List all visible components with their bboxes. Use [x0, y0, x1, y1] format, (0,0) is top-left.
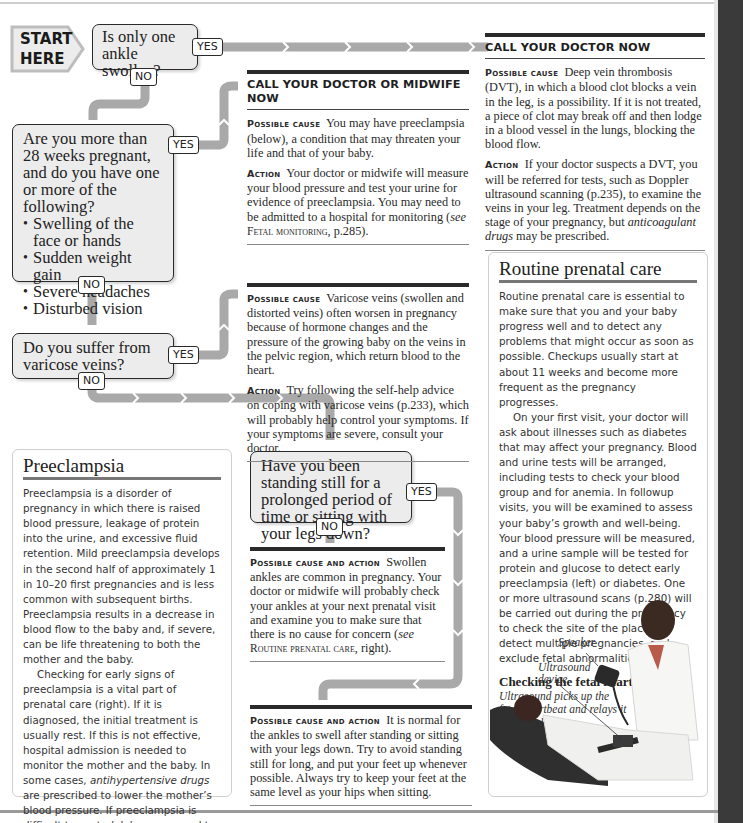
panel-bar	[247, 283, 469, 287]
cause-action-label: Possible cause and action	[250, 557, 380, 568]
cross-ref-fetal-monitoring[interactable]: Fetal monitoring	[247, 225, 327, 237]
q1-no-tag[interactable]: NO	[130, 68, 157, 86]
cause-label: Possible cause	[247, 293, 320, 304]
q4-no-tag[interactable]: NO	[316, 518, 343, 536]
panel-swelling-normal: Possible cause and action It is normal f…	[250, 705, 472, 806]
label-speaker: Speaker	[558, 636, 595, 648]
panel-call-doctor-dvt: CALL YOUR DOCTOR NOW Possible cause Deep…	[485, 33, 705, 251]
connector-q1-no	[93, 80, 145, 120]
cross-ref-routine-prenatal-care[interactable]: Routine prenatal care	[250, 642, 355, 654]
question-one-ankle: Is only one ankle swollen?	[92, 24, 198, 70]
action-label: Action	[247, 385, 280, 396]
panel-header: CALL YOUR DOCTOR OR MIDWIFE NOW	[247, 74, 469, 110]
panel-call-doctor-midwife: CALL YOUR DOCTOR OR MIDWIFE NOW Possible…	[247, 70, 469, 245]
start-here-label: START HERE	[20, 29, 73, 69]
q3-yes-tag[interactable]: YES	[168, 346, 199, 364]
cause-label: Possible cause	[485, 67, 558, 78]
fetal-heart-illustration	[488, 590, 710, 796]
connector-q2-yes	[198, 86, 238, 145]
action-label: Action	[247, 168, 280, 179]
page-edge-strip	[718, 0, 743, 823]
q3-no-tag[interactable]: NO	[78, 372, 105, 390]
q4-yes-tag[interactable]: YES	[406, 483, 437, 501]
cause-label: Possible cause	[247, 118, 320, 129]
label-ultrasound-device: Ultrasound device	[538, 661, 590, 685]
q2-yes-tag[interactable]: YES	[168, 136, 199, 154]
panel-varicose-veins: Possible cause Varicose veins (swollen a…	[247, 283, 469, 462]
question-28-weeks: Are you more than 28 weeks pregnant, and…	[12, 124, 174, 282]
cause-action-label: Possible cause and action	[250, 715, 380, 726]
q1-yes-tag[interactable]: YES	[192, 38, 223, 56]
sidebar-title: Preeclampsia	[23, 456, 221, 480]
connector-q3-yes	[198, 294, 238, 355]
panel-header: CALL YOUR DOCTOR NOW	[485, 37, 705, 59]
symptom-list: Swelling of the face or hands Sudden wei…	[23, 215, 163, 317]
q2-no-tag[interactable]: NO	[78, 276, 105, 294]
symptom-item: Swelling of the face or hands	[23, 215, 163, 249]
symptom-item: Disturbed vision	[23, 300, 163, 317]
panel-bar	[250, 547, 445, 551]
sidebar-title: Routine prenatal care	[499, 259, 697, 283]
panel-bar	[250, 705, 472, 709]
sidebar-preeclampsia: Preeclampsia Preeclampsia is a disorder …	[12, 449, 232, 797]
panel-swelling-common: Possible cause and action Swollen ankles…	[250, 547, 445, 662]
action-label: Action	[485, 159, 518, 170]
